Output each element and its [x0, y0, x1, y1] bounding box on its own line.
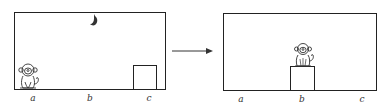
monkey-icon [17, 62, 43, 90]
arrow-icon [172, 47, 214, 55]
banana-icon [88, 13, 100, 27]
box-at-b [290, 66, 315, 91]
position-label-a: a [28, 93, 38, 103]
box-at-c [133, 65, 157, 90]
position-label-c: c [357, 94, 367, 104]
position-label-b: b [297, 94, 307, 104]
position-label-c: c [144, 93, 154, 103]
position-label-b: b [85, 93, 95, 103]
position-label-a: a [236, 94, 246, 104]
monkey-icon [292, 42, 318, 67]
